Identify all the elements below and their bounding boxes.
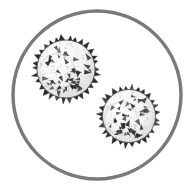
surface-speckle [51, 66, 52, 67]
surface-speckle [145, 127, 146, 128]
surface-speckle [61, 59, 62, 60]
surface-speckle [129, 137, 130, 138]
surface-speckle [147, 102, 148, 103]
surface-speckle [82, 83, 83, 84]
surface-speckle [68, 92, 69, 93]
surface-speckle [121, 94, 122, 95]
surface-speckle [69, 56, 70, 57]
surface-speckle [144, 134, 145, 135]
surface-speckle [119, 137, 121, 139]
surface-speckle [83, 58, 85, 60]
surface-speckle [110, 104, 111, 105]
surface-speckle [46, 67, 47, 68]
surface-speckle [71, 74, 72, 75]
surface-speckle [89, 82, 90, 83]
surface-speckle [143, 129, 144, 130]
surface-speckle [54, 84, 56, 86]
surface-speckle [92, 74, 93, 75]
surface-speckle [83, 70, 84, 71]
surface-speckle [132, 126, 133, 127]
surface-speckle [120, 118, 121, 119]
surface-speckle [83, 60, 84, 61]
surface-speckle [108, 102, 109, 103]
surface-speckle [131, 116, 132, 117]
surface-speckle [143, 125, 144, 126]
surface-speckle [51, 72, 53, 74]
surface-speckle [132, 109, 133, 110]
surface-speckle [119, 96, 121, 98]
surface-speckle [89, 76, 91, 78]
surface-speckle [74, 45, 75, 46]
surface-speckle [83, 57, 84, 58]
surface-speckle [60, 42, 61, 43]
surface-speckle [93, 64, 94, 65]
surface-speckle [85, 77, 86, 78]
surface-speckle [77, 66, 78, 67]
surface-speckle [51, 69, 52, 70]
surface-speckle [84, 51, 85, 52]
surface-speckle [65, 76, 66, 77]
surface-speckle [134, 104, 135, 105]
surface-speckle [86, 76, 87, 77]
surface-speckle [135, 96, 136, 97]
surface-speckle [81, 83, 83, 85]
surface-speckle [76, 51, 77, 52]
surface-speckle [80, 75, 81, 76]
surface-speckle [133, 103, 134, 104]
surface-speckle [134, 121, 135, 122]
surface-speckle [65, 73, 66, 74]
surface-speckle [66, 66, 67, 67]
surface-speckle [57, 94, 58, 95]
surface-speckle [67, 67, 69, 69]
surface-speckle [137, 93, 138, 94]
surface-speckle [63, 57, 64, 58]
surface-speckle [146, 128, 147, 129]
surface-speckle [137, 101, 138, 102]
surface-speckle [129, 97, 130, 98]
surface-speckle [108, 123, 109, 124]
surface-speckle [104, 108, 105, 109]
surface-speckle [70, 43, 71, 44]
surface-speckle [118, 128, 119, 129]
surface-speckle [111, 126, 112, 127]
surface-speckle [40, 59, 41, 60]
surface-speckle [71, 65, 72, 66]
surface-speckle [80, 90, 81, 91]
surface-speckle [140, 138, 141, 139]
figure-background [0, 0, 196, 189]
surface-speckle [91, 63, 92, 64]
surface-speckle [130, 123, 131, 124]
surface-speckle [138, 97, 139, 98]
surface-speckle [86, 62, 87, 63]
surface-speckle [142, 131, 143, 132]
surface-speckle [52, 63, 53, 64]
surface-speckle [50, 48, 52, 50]
surface-speckle [88, 53, 89, 54]
surface-speckle [69, 67, 70, 68]
surface-speckle [42, 74, 43, 75]
surface-speckle [63, 85, 64, 86]
surface-speckle [72, 47, 73, 48]
surface-speckle [70, 66, 71, 67]
surface-speckle [59, 59, 60, 60]
surface-speckle [108, 119, 109, 120]
surface-speckle [152, 115, 153, 116]
surface-speckle [83, 55, 84, 56]
surface-speckle [49, 80, 50, 81]
surface-speckle [72, 73, 74, 75]
surface-speckle [133, 124, 135, 126]
surface-speckle [148, 104, 149, 105]
surface-speckle [56, 51, 57, 52]
surface-speckle [56, 74, 57, 75]
surface-speckle [60, 69, 61, 70]
surface-speckle [149, 105, 150, 106]
surface-speckle [143, 106, 144, 107]
surface-speckle [71, 89, 73, 91]
surface-speckle [147, 133, 148, 134]
surface-speckle [106, 106, 107, 107]
surface-speckle [111, 115, 112, 116]
surface-speckle [146, 98, 147, 99]
surface-speckle [59, 95, 61, 97]
pollen-illustration-svg [0, 0, 196, 189]
surface-speckle [116, 110, 117, 111]
